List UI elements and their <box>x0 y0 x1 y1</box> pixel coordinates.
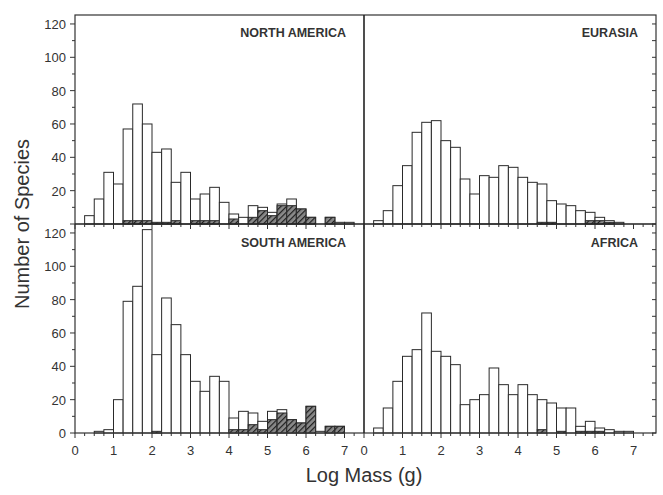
bar-total <box>557 204 567 224</box>
bar-extinct <box>268 216 278 224</box>
bar-total <box>441 141 451 224</box>
y-tick-label: 0 <box>59 426 66 441</box>
bar-total <box>431 351 441 433</box>
bar-extinct <box>306 217 316 224</box>
y-tick-label: 40 <box>52 359 66 374</box>
panel-north-america: NORTH AMERICA <box>85 26 355 224</box>
bar-total <box>133 104 143 224</box>
bar-extinct <box>287 206 297 224</box>
bar-total <box>537 400 547 433</box>
bar-total <box>489 177 499 224</box>
bar-total <box>104 172 114 224</box>
y-tick-label: 120 <box>44 226 66 241</box>
bar-total <box>191 381 201 433</box>
bar-total <box>557 408 567 433</box>
bar-total <box>152 152 162 224</box>
bar-total <box>210 376 220 433</box>
bar-total <box>114 184 124 224</box>
bar-total <box>162 149 172 224</box>
bar-total <box>460 179 470 224</box>
bar-total <box>114 400 124 433</box>
y-tick-label: 80 <box>52 84 66 99</box>
bar-extinct <box>248 217 258 224</box>
bar-total <box>181 172 191 224</box>
bar-total <box>537 184 547 224</box>
bar-extinct <box>277 206 287 224</box>
y-tick-label: 60 <box>52 117 66 132</box>
x-tick-label: 4 <box>225 443 232 458</box>
bar-extinct <box>325 426 335 433</box>
bar-extinct <box>248 425 258 433</box>
bar-extinct <box>296 209 306 224</box>
panel-eurasia: EURASIA <box>374 26 638 224</box>
bar-total <box>142 124 152 224</box>
bar-total <box>451 147 461 224</box>
bar-total <box>412 350 422 433</box>
bar-total <box>518 385 528 433</box>
bar-total <box>403 166 413 224</box>
bar-total <box>123 129 133 224</box>
y-tick-label: 80 <box>52 293 66 308</box>
histogram-figure: NORTH AMERICAEURASIASOUTH AMERICAAFRICA … <box>0 0 663 495</box>
bar-total <box>219 202 229 224</box>
bar-total <box>123 301 133 433</box>
x-tick-label: 5 <box>553 443 560 458</box>
bar-total <box>133 286 143 433</box>
bar-total <box>499 385 509 433</box>
x-tick-label: 7 <box>630 443 637 458</box>
bar-extinct <box>306 406 316 433</box>
bar-total <box>171 182 181 224</box>
bar-total <box>499 166 509 224</box>
x-tick-label: 6 <box>591 443 598 458</box>
bar-total <box>480 176 490 224</box>
bar-total <box>441 356 451 433</box>
bar-extinct <box>287 420 297 433</box>
bar-total <box>239 217 249 224</box>
bar-extinct <box>277 413 287 433</box>
x-tick-label: 1 <box>110 443 117 458</box>
panel-south-america: SOUTH AMERICA <box>94 230 346 433</box>
bar-total <box>383 211 393 224</box>
bar-extinct <box>258 211 268 224</box>
bar-extinct <box>268 420 278 433</box>
x-tick-label: 5 <box>264 443 271 458</box>
y-tick-label: 100 <box>44 50 66 65</box>
panel-title: EURASIA <box>582 26 638 40</box>
panel-title: NORTH AMERICA <box>240 26 346 40</box>
x-tick-label: 2 <box>148 443 155 458</box>
bar-total <box>508 167 518 224</box>
bar-extinct <box>296 423 306 433</box>
bar-total <box>85 216 95 224</box>
x-tick-label: 2 <box>437 443 444 458</box>
bar-total <box>200 194 210 224</box>
bar-total <box>470 400 480 433</box>
bar-total <box>403 356 413 433</box>
bar-total <box>451 365 461 433</box>
x-tick-label: 3 <box>187 443 194 458</box>
y-tick-label: 120 <box>44 17 66 32</box>
bar-total <box>94 199 104 224</box>
bar-total <box>547 403 557 433</box>
bar-total <box>383 408 393 433</box>
y-tick-label: 40 <box>52 150 66 165</box>
x-tick-label: 7 <box>341 443 348 458</box>
panel-title: SOUTH AMERICA <box>241 236 346 250</box>
bar-total <box>489 368 499 433</box>
y-tick-label: 20 <box>52 393 66 408</box>
bar-total <box>470 194 480 224</box>
bar-total <box>181 355 191 433</box>
bar-total <box>422 122 432 224</box>
bar-total <box>528 395 538 433</box>
y-tick-label: 20 <box>52 184 66 199</box>
bar-total <box>393 186 403 224</box>
y-tick-label: 100 <box>44 259 66 274</box>
bar-total <box>508 395 518 433</box>
bar-total <box>566 206 576 224</box>
bar-total <box>200 391 210 433</box>
bar-total <box>374 428 384 433</box>
bar-total <box>480 395 490 433</box>
x-tick-label: 3 <box>476 443 483 458</box>
x-axis-title: Log Mass (g) <box>306 464 423 486</box>
x-tick-label: 6 <box>302 443 309 458</box>
bar-total <box>422 313 432 433</box>
